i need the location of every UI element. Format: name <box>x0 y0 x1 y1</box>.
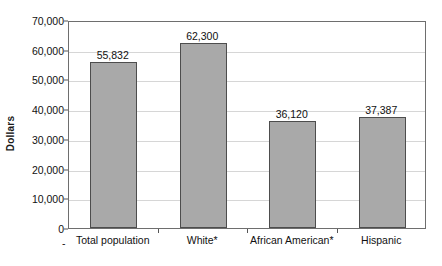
origin-dash-annotation: - <box>62 238 66 249</box>
x-tick-mark <box>247 229 248 233</box>
y-axis-ticks: 010,00020,00030,00040,00050,00060,00070,… <box>20 21 64 229</box>
bar-chart: Dollars 010,00020,00030,00040,00050,0006… <box>0 0 442 266</box>
x-tick-label: Hispanic <box>361 234 401 246</box>
y-tick-label: 40,000 <box>32 104 64 116</box>
x-tick-mark <box>337 229 338 233</box>
y-axis-title: Dollars <box>2 0 20 266</box>
bar-value-label: 36,120 <box>276 108 308 120</box>
y-tick-label: 30,000 <box>32 134 64 146</box>
bar-value-label: 55,832 <box>97 49 129 61</box>
y-tick-label: 10,000 <box>32 193 64 205</box>
y-tick-label: 50,000 <box>32 74 64 86</box>
bar-value-label: 37,387 <box>365 104 397 116</box>
bar-value-label: 62,300 <box>186 30 218 42</box>
bar[interactable] <box>90 62 137 228</box>
y-tick-label: 20,000 <box>32 164 64 176</box>
x-tick-label: African American* <box>250 234 333 246</box>
y-axis-title-text: Dollars <box>6 115 17 150</box>
bar[interactable] <box>269 121 316 228</box>
y-tick-label: 70,000 <box>32 15 64 27</box>
bar[interactable] <box>180 43 227 228</box>
x-tick-label: White* <box>187 234 218 246</box>
x-tick-label: Total population <box>76 234 150 246</box>
y-tick-label: 60,000 <box>32 45 64 57</box>
x-tick-mark <box>158 229 159 233</box>
bar[interactable] <box>359 117 406 228</box>
